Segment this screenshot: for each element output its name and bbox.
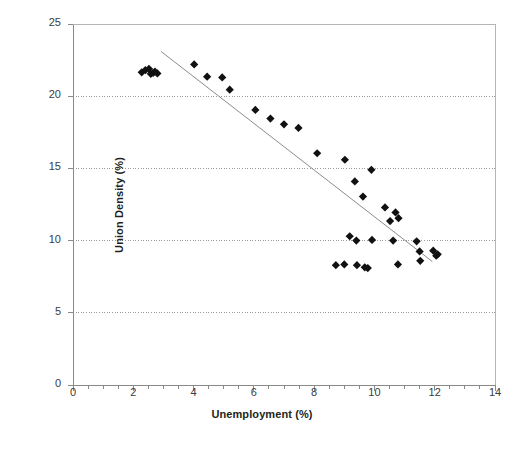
y-tick-label: 5: [21, 305, 61, 317]
x-axis-title: Unemployment (%): [0, 408, 524, 420]
x-tick-label: 12: [415, 386, 455, 398]
scatter-plot: [0, 0, 524, 450]
trendline: [161, 51, 432, 261]
x-tick-label: 10: [354, 386, 394, 398]
chart-figure: 02468101214 0510152025 Unemployment (%) …: [0, 0, 524, 450]
plot-frame: [73, 24, 495, 385]
y-axis-title-container: Union Density (%): [107, 0, 131, 410]
y-tick-label: 15: [21, 160, 61, 172]
y-tick-label: 20: [21, 88, 61, 100]
x-tick-label: 8: [294, 386, 334, 398]
y-tick-label: 0: [21, 377, 61, 389]
y-tick-label: 25: [21, 16, 61, 28]
y-tick-label: 10: [21, 233, 61, 245]
axis-tickmarks: [68, 24, 495, 391]
x-tick-label: 6: [234, 386, 274, 398]
x-tick-label: 14: [475, 386, 515, 398]
gridlines: [73, 24, 495, 313]
y-axis-title: Union Density (%): [113, 157, 125, 253]
x-tick-label: 4: [174, 386, 214, 398]
